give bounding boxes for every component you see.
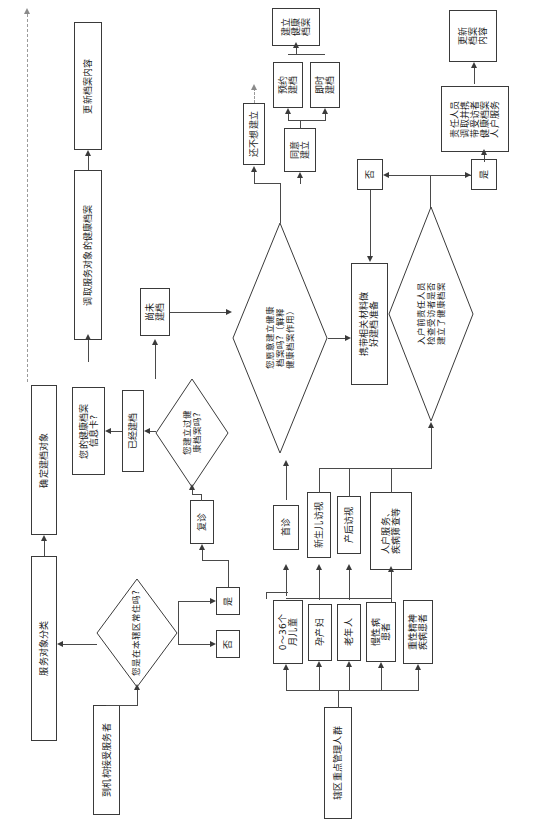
edge-population-bus [286, 598, 392, 599]
edge-population-bus-left [266, 592, 288, 593]
edge-willing-to-materials [328, 338, 345, 339]
edge-checkno-to-materials [370, 190, 371, 256]
edge-returnvisit-jog [192, 494, 202, 495]
node-update-record-content-right: 更新 档案 内容 [449, 10, 497, 62]
node-label: 产后访视 [344, 507, 354, 544]
node-label: 入户前责任人员 检查受访者是否 建立了健康档案 [416, 282, 445, 345]
edge-staff-to-update [474, 68, 475, 84]
node-first-visit: 首诊 [273, 505, 299, 550]
node-label-wrap: 您愿意建立健康 档案吗?（解释 健康档案作用） [232, 222, 328, 454]
node-already-filed: 已经建档 [122, 390, 144, 472]
edge-check-bus-drop [430, 175, 431, 208]
edge-returnvisit-to-hasrecord [201, 494, 202, 501]
edge-willing-to-notwant-h [254, 183, 281, 184]
edge-filing-merge-h [288, 54, 325, 55]
node-pop-elderly: 老年人 [337, 604, 361, 661]
node-label: 您的健康档案 信息卡? [78, 403, 98, 458]
arrowhead-dashed-up [251, 84, 257, 90]
edge-filing-merge-v [296, 48, 297, 55]
edge-resident-to-yes-h [178, 601, 210, 602]
node-label: 您愿意建立健康 档案吗?（解释 健康档案作用） [265, 306, 294, 369]
edge-receiver-h [106, 705, 138, 706]
arrowhead-up [346, 661, 352, 667]
node-label: 服务对象分类 [39, 621, 49, 676]
node-label: 建立 健康 档案 [281, 18, 311, 36]
edge-no-to-left [62, 644, 97, 645]
node-label: 更新 档案 内容 [458, 27, 488, 45]
edge-notwant-stub [254, 172, 255, 184]
edge-pregnant-to-postpartum [349, 570, 350, 600]
edge-resident-vert [178, 601, 179, 645]
arrowhead-up [293, 42, 299, 48]
arrowhead-up [316, 661, 322, 667]
arrowhead-up [428, 422, 434, 428]
arrowhead-up [415, 664, 421, 670]
node-label-wrap: 入户前责任人员 检查受访者是否 建立了健康档案 [388, 206, 474, 422]
node-key-population: 辖区重点管理人群 [324, 707, 352, 819]
arrowhead-left [57, 641, 63, 647]
arrowhead-up [85, 150, 91, 156]
node-not-want-yet: 还不想建立 [243, 103, 265, 165]
arrowhead-right [210, 641, 216, 647]
arrowhead-up [283, 564, 289, 570]
node-pop-chronic: 慢性病 患者 [366, 602, 396, 662]
node-label: 人户服务、 疾病筛查等 [381, 508, 401, 554]
edge-hasrecord-to-notyet [155, 345, 156, 379]
arrowhead-right [226, 309, 232, 315]
node-label: 慢性病 患者 [371, 618, 391, 646]
edge-to-appointment [288, 114, 289, 121]
node-label: 0～36个 月儿童 [278, 614, 298, 650]
node-postpartum-visit: 产后访视 [337, 496, 361, 554]
node-resident-no: 否 [216, 630, 240, 658]
edge-population-bus-jog [266, 592, 267, 599]
node-label: 还不想建立 [249, 111, 259, 157]
arrowhead-up [322, 108, 328, 114]
arrowhead-left [144, 428, 150, 434]
edge-notyet-to-willing [170, 312, 226, 313]
edge-service-bus [319, 468, 431, 469]
edge-keypop-bus [286, 690, 418, 691]
node-return-visit: 复诊 [190, 500, 214, 544]
node-resident-yes: 是 [216, 587, 240, 615]
node-label: 同意 建立 [290, 141, 310, 159]
edge-hasrecord-to-filed [150, 431, 156, 432]
node-label: 首诊 [281, 518, 291, 536]
arrowhead-up [283, 460, 289, 466]
node-bring-materials: 携带相关材料做 好建档准备 [351, 263, 388, 385]
arrowhead-up [297, 172, 303, 178]
node-label: 您建立过健 康档案吗? [182, 411, 202, 456]
node-home-visit-check-question: 入户前责任人员 检查受访者是否 建立了健康档案 [388, 206, 474, 422]
node-willing-question: 您愿意建立健康 档案吗?（解释 健康档案作用） [232, 222, 328, 454]
arrowhead-up [378, 662, 384, 668]
edge-classification-to-confirm [44, 541, 45, 556]
arrowhead-up [316, 564, 322, 570]
node-label: 是 [223, 596, 233, 605]
node-label: 已经建档 [128, 413, 138, 450]
node-label: 复诊 [197, 513, 207, 531]
arrowhead-up [152, 339, 158, 345]
edge-notwant-dashed [254, 88, 255, 103]
node-label: 调取服务对象的健康档案 [83, 204, 93, 305]
arrowhead-right [345, 335, 351, 341]
node-label: 老年人 [344, 619, 354, 647]
node-pop-children: 0～36个 月儿童 [273, 600, 303, 664]
arrowhead-right [210, 598, 216, 604]
arrowhead-up [481, 149, 487, 155]
arrowhead-up [189, 484, 195, 490]
node-appointment-filing: 预约 建档 [273, 62, 303, 108]
edge-hasrecord-to-notyet-h [155, 345, 156, 346]
node-check-no: 否 [357, 159, 383, 190]
node-immediate-filing: 即时 建档 [310, 62, 340, 108]
node-label: 即时 建档 [315, 76, 335, 94]
edge-receiver-to-resident [137, 690, 138, 706]
arrowhead-up [388, 566, 394, 572]
node-label: 确定建档对象 [39, 432, 49, 487]
node-build-health-record: 建立 健康 档案 [272, 8, 320, 46]
node-health-record-card: 您的健康档案 信息卡? [72, 387, 105, 475]
node-has-record-question: 您建立过健 康档案吗? [155, 378, 229, 488]
node-label: 重性精神 疾病患者 [408, 614, 428, 651]
edge-yes-to-staff [484, 155, 485, 162]
arrowhead-up [285, 108, 291, 114]
node-label: 新生儿访视 [314, 502, 324, 548]
